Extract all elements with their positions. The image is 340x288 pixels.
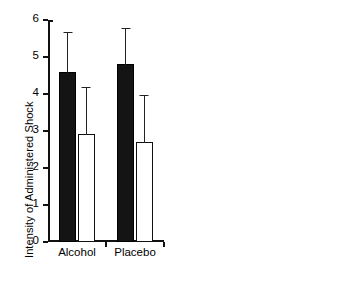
x-tick-left-0 [105, 242, 106, 247]
error-bar-left-alcohol-filled [67, 33, 68, 73]
error-bar-left-alcohol-open [86, 88, 87, 134]
y-tick-left-5: 5 [43, 56, 48, 57]
error-cap-left-placebo-open [140, 95, 149, 96]
bar-left-alcohol-open [78, 134, 95, 242]
y-tick-label-left-4: 4 [33, 87, 39, 99]
y-tick-left-4: 4 [43, 93, 48, 94]
bar-left-placebo-filled [117, 64, 134, 242]
x-group-label-left-alcohol: Alcohol [58, 247, 96, 259]
chart-panel-right: Response Latency in Seconds 00.51.01.5Al… [175, 0, 340, 288]
figure-two-panel-bar-charts: Intensity of Administered Shock 0123456A… [0, 0, 340, 288]
error-bar-left-placebo-open [144, 96, 145, 143]
x-tick-left-1 [163, 242, 164, 247]
y-tick-left-6: 6 [43, 19, 48, 20]
y-axis-line-left [48, 20, 50, 242]
error-cap-left-placebo-filled [121, 28, 130, 29]
bar-left-placebo-open [136, 142, 153, 242]
plot-area-left: 0123456AlcoholPlacebo [48, 20, 164, 242]
bar-left-alcohol-filled [59, 72, 76, 242]
y-tick-label-left-0: 0 [33, 235, 39, 247]
y-tick-left-1: 1 [43, 204, 48, 205]
y-tick-label-left-5: 5 [33, 50, 39, 62]
error-cap-left-alcohol-filled [63, 32, 72, 33]
x-group-label-left-placebo: Placebo [114, 247, 156, 259]
y-tick-label-left-2: 2 [33, 161, 39, 173]
chart-panel-left: Intensity of Administered Shock 0123456A… [0, 0, 175, 288]
y-tick-left-3: 3 [43, 130, 48, 131]
y-tick-label-left-6: 6 [33, 13, 39, 25]
y-tick-label-left-3: 3 [33, 124, 39, 136]
y-tick-left-2: 2 [43, 167, 48, 168]
error-bar-left-placebo-filled [125, 29, 126, 64]
y-tick-left-0: 0 [43, 241, 48, 242]
y-tick-label-left-1: 1 [33, 198, 39, 210]
y-axis-top-cap-left [48, 20, 53, 22]
error-cap-left-alcohol-open [82, 87, 91, 88]
